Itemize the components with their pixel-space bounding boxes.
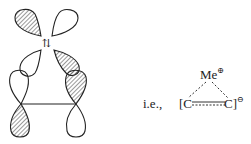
metal-lobe-right (52, 10, 78, 36)
left-carbon: [C (179, 97, 192, 110)
right-carbon: C] (224, 96, 237, 111)
interaction-arrow: ⇅ (42, 38, 51, 49)
right-carbon-group: C]⊖ (224, 97, 244, 110)
metal-lobe-left (15, 9, 41, 36)
positive-charge: ⊕ (217, 66, 224, 75)
ie-label: i.e., (143, 97, 162, 110)
p-lobe-left-bottom (11, 104, 30, 137)
negative-charge: ⊖ (237, 95, 244, 104)
orbital-diagram (0, 0, 130, 144)
p-lobe-right-top (66, 70, 87, 104)
p-lobe-right-bottom (66, 104, 85, 137)
pi-lobe-upper-left (20, 50, 41, 76)
